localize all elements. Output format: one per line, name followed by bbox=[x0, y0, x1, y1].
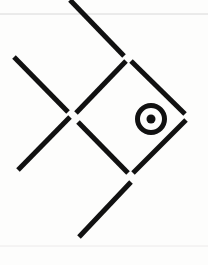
figure-canvas bbox=[0, 0, 208, 265]
matchstick-fish-drawing bbox=[0, 0, 208, 265]
eye-pupil-dot bbox=[147, 115, 156, 124]
